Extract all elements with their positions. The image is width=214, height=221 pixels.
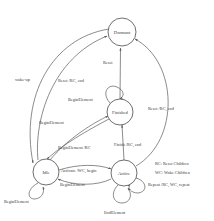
edge-label-activate-wc-begin: Activate /WC, begin — [61, 168, 97, 174]
edge-label-beginelement-idle-self: BeginElement — [4, 199, 29, 204]
edge-active-self-loop-end — [113, 185, 130, 203]
edge-label-reset-rc-end-left: Reset /RC, end — [58, 78, 85, 84]
edge-label-finish-rc-end: Finish /RC, end — [114, 142, 142, 148]
state-node-idle[interactable]: Idle — [33, 159, 59, 185]
edge-finished-to-dormant — [120, 48, 121, 99]
edge-label-beginelement-finished-self: BeginElement — [68, 97, 93, 102]
state-label-active: Active — [118, 171, 130, 176]
edge-label-reset-rc-end-right: Reset /RC, end — [148, 106, 175, 112]
edge-label-beginelement-finished-idle: BeginElement — [39, 120, 64, 125]
edge-label-wake-up: wake-up — [15, 77, 30, 82]
edge-idle-self-loop — [29, 183, 43, 199]
state-machine-diagram: Dormant Finished Idle Active Reset Reset… — [0, 0, 214, 221]
diagram-canvas: Dormant Finished Idle Active Reset Reset… — [0, 0, 214, 221]
edge-dormant-to-idle — [30, 29, 109, 163]
state-label-finished: Finished — [112, 110, 129, 115]
edge-label-endelement: EndElement — [104, 210, 126, 215]
state-label-dormant: Dormant — [114, 30, 131, 35]
edge-label-reset: Reset — [103, 60, 113, 65]
state-node-active[interactable]: Active — [111, 160, 137, 186]
edge-label-beginelement-active-idle: BeginElement — [60, 182, 85, 187]
state-node-dormant[interactable]: Dormant — [108, 18, 136, 46]
edge-label-beginelement-rc: BeginElement /RC — [58, 145, 91, 150]
state-label-idle: Idle — [42, 170, 49, 175]
edge-label-repeat-rc-wc-repeat: Repeat /RC, WC, repeat — [148, 182, 190, 188]
legend-wake-children: WC: Wake Children — [155, 170, 191, 175]
state-node-finished[interactable]: Finished — [107, 99, 133, 125]
legend-reset-children: RC: Reset Children — [155, 161, 190, 166]
